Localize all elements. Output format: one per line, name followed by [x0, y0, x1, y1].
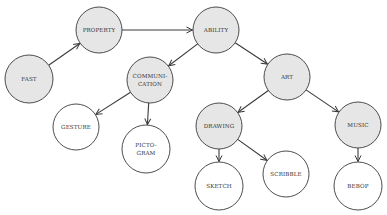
- node-communication: [127, 57, 173, 103]
- node-scribble: [263, 151, 309, 197]
- edge-ability-to-art-arrow: [235, 43, 267, 64]
- node-music: [335, 102, 381, 148]
- node-fast: [5, 55, 53, 103]
- node-drawing: [196, 103, 242, 149]
- node-gesture: [53, 104, 99, 150]
- node-sketch: [195, 162, 243, 210]
- node-property: [76, 7, 122, 53]
- node-bebop: [334, 162, 382, 210]
- edge-art-to-music-arrow: [306, 90, 338, 112]
- edge-ability-to-communication-arrow: [169, 44, 198, 66]
- edge-communication-to-pictogram-arrow: [147, 103, 148, 125]
- edge-communication-to-gesture-arrow: [96, 92, 131, 114]
- node-pictogram: [122, 125, 170, 173]
- node-art: [264, 54, 310, 100]
- concept-diagram: [0, 0, 387, 215]
- edge-drawing-to-scribble-arrow: [238, 139, 267, 160]
- edge-fast-to-property-arrow: [49, 43, 80, 65]
- node-ability: [193, 7, 239, 53]
- edge-art-to-drawing-arrow: [238, 90, 268, 112]
- nodes-layer: [5, 7, 382, 210]
